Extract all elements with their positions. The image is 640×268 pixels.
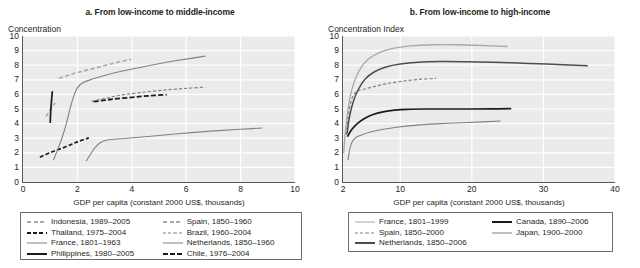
legend-item-label: Netherlands, 1850–1960 [187,239,275,247]
x-tick-label: 4 [120,185,144,194]
legend-item-label: Chile, 1976–2004 [187,250,250,258]
legend-item[interactable]: France, 1801–1963 [27,238,156,249]
x-tick-label: 2 [65,185,89,194]
legend-item-label: Indonesia, 1989–2005 [51,218,130,226]
y-tick-label: 5 [0,105,19,114]
legend-item[interactable]: Canada, 1890–2006 [492,217,607,228]
legend-item-label: Canada, 1890–2006 [516,218,589,226]
y-tick-label: 6 [0,90,19,99]
legend-item-label: France, 1801–1999 [379,218,448,226]
y-tick-label: 2 [0,148,19,157]
series-line [86,128,262,161]
y-tick-label: 4 [0,119,19,128]
panel-a-x-axis-label: GDP per capita (constant 2000 US$, thous… [23,198,295,207]
y-tick-label: 8 [320,61,339,70]
legend-item[interactable]: Spain, 1850–1960 [163,217,296,228]
legend-item-label: Japan, 1900–2000 [516,229,582,237]
legend-item[interactable]: France, 1801–1999 [355,217,485,228]
series-line [40,138,89,157]
figure-root: { "figure": { "panels": [ { "id": "a", "… [0,0,640,268]
series-line [53,56,205,160]
x-tick-label: 30 [531,185,555,194]
panel-b-y-axis-line [342,36,343,183]
y-tick-label: 7 [0,75,19,84]
x-tick-label: 2 [331,185,355,194]
y-tick-label: 10 [0,32,19,41]
y-tick-label: 1 [320,163,339,172]
x-tick-label: 40 [603,185,627,194]
panel-a-x-axis-line [22,182,295,183]
panel-b: b. From low-income to high-income Concen… [320,0,640,268]
panel-b-legend: France, 1801–1999Canada, 1890–2006Spain,… [348,212,613,252]
panel-a-y-axis-line [22,36,23,183]
legend-item[interactable]: Chile, 1976–2004 [163,249,296,260]
legend-item-label: France, 1801–1963 [51,239,120,247]
panel-b-plot-area [343,36,615,182]
x-tick-label: 6 [174,185,198,194]
legend-item[interactable]: Japan, 1900–2000 [492,228,607,239]
panel-a-legend: Indonesia, 1989–2005Spain, 1850–1960Thai… [20,212,302,260]
series-line [348,121,500,160]
legend-item-label: Netherlands, 1850–2006 [379,239,467,247]
panel-b-x-axis-line [342,182,615,183]
y-tick-label: 4 [320,119,339,128]
legend-item-label: Thailand, 1975–2004 [51,229,126,237]
panel-b-title: b. From low-income to high-income [320,7,640,17]
x-tick-label: 0 [11,185,35,194]
y-tick-label: 8 [0,61,19,70]
x-tick-label: 8 [229,185,253,194]
y-tick-label: 3 [0,134,19,143]
legend-item-label: Spain, 1850–1960 [187,218,252,226]
legend-item[interactable]: Indonesia, 1989–2005 [27,217,156,228]
legend-item[interactable]: Spain, 1850–2000 [355,228,485,239]
legend-item[interactable]: Netherlands, 1850–2006 [355,238,485,249]
legend-item[interactable]: Netherlands, 1850–1960 [163,238,296,249]
y-tick-label: 9 [0,46,19,55]
y-tick-label: 3 [320,134,339,143]
series-line [59,59,131,78]
y-tick-label: 5 [320,105,339,114]
series-line [347,109,511,137]
legend-item-label: Spain, 1850–2000 [379,229,444,237]
legend-item-label: Philippines, 1980–2005 [51,250,134,258]
y-tick-label: 9 [320,46,339,55]
y-tick-label: 6 [320,90,339,99]
x-tick-label: 20 [460,185,484,194]
series-line [344,45,508,153]
panel-a: a. From low-income to middle-income Conc… [0,0,320,268]
y-tick-label: 2 [320,148,339,157]
y-tick-label: 7 [320,75,339,84]
legend-item-label: Brazil, 1960–2004 [187,229,252,237]
panel-a-plot-area [23,36,295,182]
panel-b-y-axis-label: Concentration Index [328,24,404,34]
panel-a-title: a. From low-income to middle-income [0,7,320,17]
legend-item[interactable]: Brazil, 1960–2004 [163,228,296,239]
x-tick-label: 10 [388,185,412,194]
series-line [50,91,52,123]
x-tick-label: 10 [283,185,307,194]
legend-item[interactable]: Thailand, 1975–2004 [27,228,156,239]
legend-item[interactable]: Philippines, 1980–2005 [27,249,156,260]
y-tick-label: 1 [0,163,19,172]
panel-b-x-axis-label: GDP per capita (constant 2000 US$, thous… [343,198,615,207]
y-tick-label: 10 [320,32,339,41]
